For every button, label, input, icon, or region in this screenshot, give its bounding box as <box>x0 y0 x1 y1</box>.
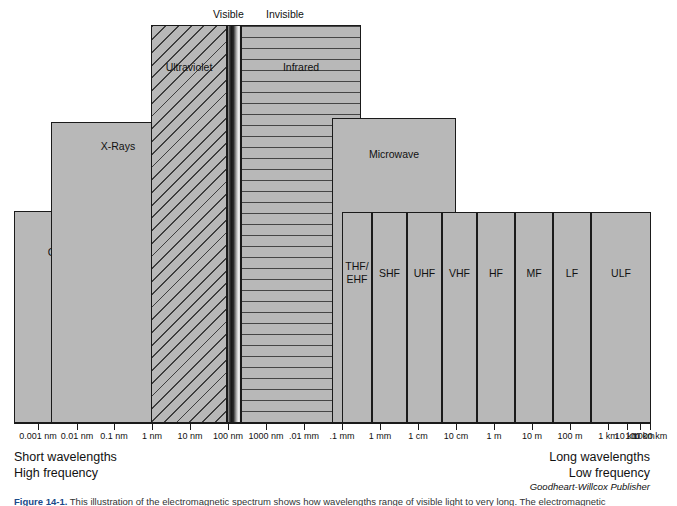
band-label: MF <box>516 267 552 280</box>
wavelength-axis-line <box>14 423 651 424</box>
spectrum-band-shf: SHF <box>372 212 407 423</box>
spectrum-band-ulf: ULF <box>591 212 651 423</box>
band-label: LF <box>554 267 590 280</box>
band-label: Infrared <box>242 61 360 74</box>
axis-tick <box>190 423 191 430</box>
axis-tick <box>532 423 533 430</box>
band-label: VHF <box>443 267 476 280</box>
spectrum-band-thf-ehf: THF/ EHF <box>342 212 372 423</box>
band-label: ULF <box>592 267 650 280</box>
axis-tick <box>114 423 115 430</box>
publisher-credit: Goodheart-Willcox Publisher <box>530 481 650 492</box>
axis-tick <box>77 423 78 430</box>
spectrum-band-mf: MF <box>515 212 553 423</box>
short-wavelength-note: Short wavelengths High frequency <box>14 450 117 481</box>
spectrum-band-visible <box>227 25 241 423</box>
axis-tick <box>627 423 628 430</box>
figure-caption: Figure 14-1. This illustration of the el… <box>14 496 664 506</box>
axis-tick <box>380 423 381 430</box>
band-label: HF <box>478 267 514 280</box>
figure-caption-text: This illustration of the electromagnetic… <box>67 496 605 506</box>
band-label: SHF <box>373 267 406 280</box>
spectrum-band-lf: LF <box>553 212 591 423</box>
axis-tick <box>304 423 305 430</box>
spectrum-band-uhf: UHF <box>407 212 442 423</box>
axis-tick <box>570 423 571 430</box>
band-label: Ultraviolet <box>152 61 226 74</box>
spectrum-band-ultraviolet: Ultraviolet <box>151 25 227 423</box>
axis-tick <box>608 423 609 430</box>
figure-caption-number: Figure 14-1. <box>14 496 67 506</box>
axis-tick <box>418 423 419 430</box>
axis-tick-label: 1000 km <box>620 431 677 442</box>
axis-tick <box>152 423 153 430</box>
axis-tick <box>228 423 229 430</box>
axis-tick <box>38 423 39 430</box>
axis-tick <box>456 423 457 430</box>
spectrum-band-hf: HF <box>477 212 515 423</box>
axis-tick <box>640 423 641 430</box>
band-label: Microwave <box>333 148 455 161</box>
axis-tick <box>266 423 267 430</box>
axis-tick <box>494 423 495 430</box>
band-label: UHF <box>408 267 441 280</box>
band-label: THF/ EHF <box>343 260 371 286</box>
region-marker-visible: Visible <box>213 8 244 21</box>
long-wavelength-note: Long wavelengths Low frequency <box>549 450 650 481</box>
axis-tick <box>342 423 343 430</box>
spectrum-band-vhf: VHF <box>442 212 477 423</box>
region-marker-invisible: Invisible <box>266 8 304 21</box>
axis-tick <box>650 423 651 430</box>
